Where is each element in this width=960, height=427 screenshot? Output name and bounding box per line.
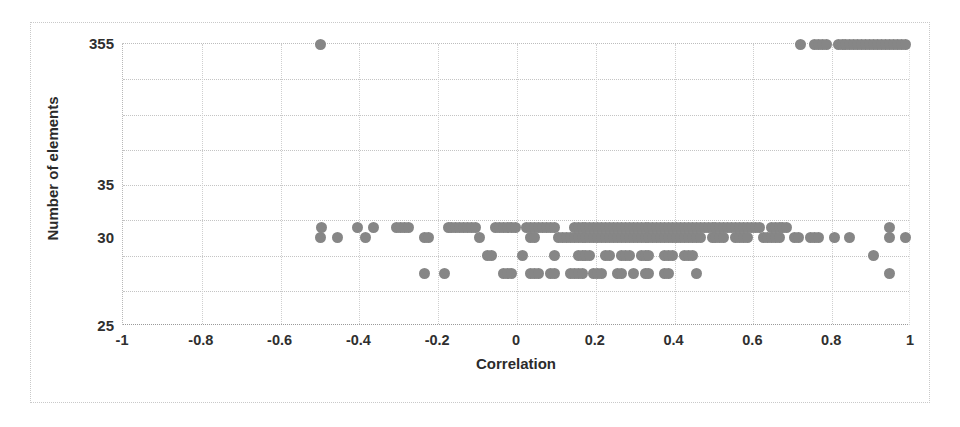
x-axis-title: Correlation xyxy=(122,355,910,372)
scatter-point xyxy=(742,232,753,243)
scatter-point xyxy=(533,268,544,279)
x-tick-label: 0.6 xyxy=(742,330,762,350)
scatter-point xyxy=(584,250,595,261)
scatter-point xyxy=(821,39,832,50)
scatter-point xyxy=(529,232,540,243)
scatter-point xyxy=(667,250,678,261)
horizontal-gridline xyxy=(123,79,909,80)
scatter-point xyxy=(695,232,706,243)
vertical-gridline xyxy=(753,44,754,324)
horizontal-gridline xyxy=(123,185,909,186)
x-tick-label: 0.2 xyxy=(585,330,605,350)
plot-area xyxy=(122,43,910,325)
x-tick-label: 0.8 xyxy=(821,330,841,350)
scatter-point xyxy=(517,250,528,261)
scatter-point xyxy=(549,222,560,233)
x-tick-label: -0.6 xyxy=(267,330,292,350)
scatter-point xyxy=(549,250,560,261)
x-tick-label: 0 xyxy=(512,330,520,350)
scatter-point xyxy=(510,222,521,233)
x-tick-label: 1 xyxy=(906,330,914,350)
vertical-gridline xyxy=(281,44,282,324)
scatter-point xyxy=(643,250,654,261)
scatter-point xyxy=(844,232,855,243)
scatter-point xyxy=(604,250,615,261)
scatter-point xyxy=(718,232,729,243)
vertical-gridline xyxy=(832,44,833,324)
scatter-point xyxy=(360,232,371,243)
scatter-point xyxy=(332,232,343,243)
scatter-point xyxy=(813,232,824,243)
scatter-point xyxy=(403,222,414,233)
x-tick-label: -0.4 xyxy=(346,330,371,350)
scatter-point xyxy=(368,222,379,233)
scatter-point xyxy=(628,268,639,279)
scatter-point xyxy=(352,222,363,233)
scatter-point xyxy=(900,232,911,243)
vertical-gridline xyxy=(517,44,518,324)
horizontal-gridline xyxy=(123,115,909,116)
horizontal-gridline xyxy=(123,150,909,151)
scatter-point xyxy=(419,268,430,279)
y-tick-label: 25 xyxy=(97,318,114,333)
scatter-point xyxy=(781,222,792,233)
y-tick-label: 355 xyxy=(89,36,114,51)
scatter-point xyxy=(884,222,895,233)
scatter-point xyxy=(795,39,806,50)
vertical-gridline xyxy=(438,44,439,324)
x-tick-label: -0.2 xyxy=(425,330,450,350)
scatter-point xyxy=(754,222,765,233)
scatter-point xyxy=(884,232,895,243)
scatter-point xyxy=(687,250,698,261)
scatter-point xyxy=(577,268,588,279)
scatter-point xyxy=(470,222,481,233)
chart-figure: 355353025 -1-0.8-0.6-0.4-0.200.20.40.60.… xyxy=(0,0,960,427)
scatter-point xyxy=(423,232,434,243)
scatter-point xyxy=(900,39,911,50)
x-tick-label: -0.8 xyxy=(188,330,213,350)
scatter-point xyxy=(439,268,450,279)
vertical-gridline xyxy=(596,44,597,324)
scatter-point xyxy=(315,232,326,243)
x-tick-label: -1 xyxy=(116,330,129,350)
scatter-point xyxy=(549,268,560,279)
scatter-point xyxy=(643,268,654,279)
x-tick-label: 0.4 xyxy=(664,330,684,350)
scatter-point xyxy=(868,250,879,261)
scatter-point xyxy=(829,232,840,243)
scatter-point xyxy=(474,232,485,243)
scatter-point xyxy=(596,268,607,279)
scatter-point xyxy=(316,222,327,233)
vertical-gridline xyxy=(359,44,360,324)
scatter-point xyxy=(663,268,674,279)
scatter-point xyxy=(793,232,804,243)
scatter-point xyxy=(624,250,635,261)
y-axis-tick-labels: 355353025 xyxy=(60,43,114,325)
y-axis-title: Number of elements xyxy=(44,79,61,259)
x-axis-tick-labels: -1-0.8-0.6-0.4-0.200.20.40.60.81 xyxy=(122,330,910,354)
vertical-gridline xyxy=(675,44,676,324)
scatter-point xyxy=(774,232,785,243)
vertical-gridline xyxy=(202,44,203,324)
scatter-point xyxy=(691,268,702,279)
horizontal-gridline xyxy=(123,291,909,292)
scatter-point xyxy=(506,268,517,279)
y-tick-label: 30 xyxy=(97,230,114,245)
y-tick-label: 35 xyxy=(97,177,114,192)
scatter-point xyxy=(486,250,497,261)
scatter-point xyxy=(616,268,627,279)
horizontal-gridline xyxy=(123,256,909,257)
scatter-point xyxy=(315,39,326,50)
scatter-point xyxy=(884,268,895,279)
